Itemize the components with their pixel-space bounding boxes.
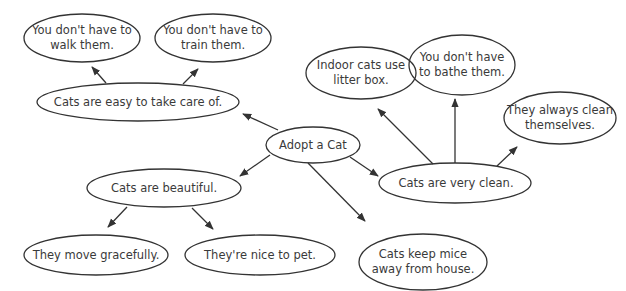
edge-easy-train bbox=[183, 69, 198, 84]
node-train: You don't have to train them. bbox=[157, 16, 269, 60]
edge-beautiful-pet bbox=[192, 208, 213, 229]
edge-beautiful-graceful bbox=[108, 207, 127, 227]
edge-clean-selfclean bbox=[497, 147, 517, 166]
edge-center-easy bbox=[243, 114, 278, 130]
node-beautiful: Cats are beautiful. bbox=[88, 178, 240, 198]
edge-center-clean bbox=[350, 157, 378, 176]
node-bathe: You don't have to bathe them. bbox=[409, 43, 515, 87]
node-clean: Cats are very clean. bbox=[381, 173, 531, 193]
node-center: Adopt a Cat bbox=[266, 135, 360, 155]
node-pet: They're nice to pet. bbox=[186, 245, 334, 265]
edge-easy-walk bbox=[92, 67, 106, 83]
node-selfclean: They always clean themselves. bbox=[504, 96, 616, 140]
node-litter: Indoor cats use litter box. bbox=[306, 51, 416, 95]
node-mice: Cats keep mice away from house. bbox=[360, 240, 486, 284]
concept-map: You don't have to walk them. You don't h… bbox=[0, 0, 626, 291]
edge-center-mice bbox=[308, 163, 365, 221]
node-walk: You don't have to walk them. bbox=[26, 16, 138, 60]
edge-clean-litter bbox=[378, 109, 433, 164]
edge-center-beautiful bbox=[240, 155, 270, 176]
node-easy: Cats are easy to take care of. bbox=[40, 92, 236, 112]
node-graceful: They move gracefully. bbox=[24, 245, 168, 265]
